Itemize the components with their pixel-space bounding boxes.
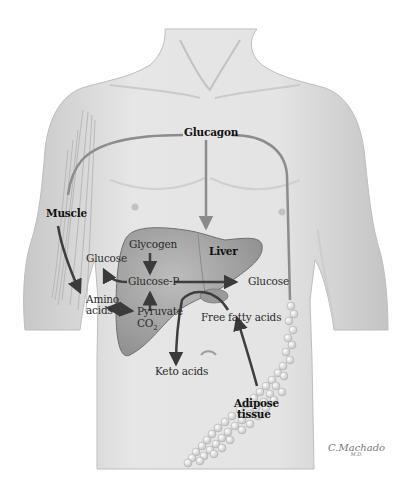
- free-fatty-acids-label: Free fatty acids: [201, 312, 281, 323]
- glucose-right-label: Glucose: [248, 276, 289, 287]
- liver-label: Liver: [209, 246, 238, 257]
- co2-text: CO: [137, 317, 153, 329]
- glucagon-label: Glucagon: [184, 127, 238, 138]
- glucose-left-label: Glucose: [86, 253, 127, 264]
- tissue-label: tissue: [237, 409, 271, 420]
- keto-acids-label: Keto acids: [155, 366, 208, 377]
- co2-label: CO2: [137, 318, 158, 334]
- anatomy-illustration: [0, 0, 402, 489]
- glucagon-diagram: Glucagon Muscle Liver Glycogen Glucose G…: [0, 0, 402, 489]
- glucose-p-label: Glucose-P: [128, 276, 179, 287]
- muscle-label: Muscle: [46, 208, 87, 219]
- glycogen-label: Glycogen: [129, 239, 177, 250]
- acids-label: acids: [86, 305, 113, 316]
- co2-subscript: 2: [153, 324, 157, 332]
- artist-signature: C.Machado M.D.: [328, 442, 385, 457]
- pyruvate-label: Pyruvate: [137, 306, 183, 317]
